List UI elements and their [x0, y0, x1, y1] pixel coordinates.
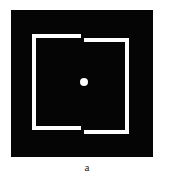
- figure-caption: a: [0, 160, 174, 174]
- frame-segment-top-right: [84, 38, 129, 42]
- fixation-dot: [80, 78, 88, 86]
- frame-segment-right-vertical: [125, 38, 129, 134]
- frame-segment-left-vertical: [32, 34, 36, 130]
- frame-segment-bottom-right: [84, 130, 129, 134]
- frame-segment-top-left: [32, 34, 81, 38]
- stimulus-panel: [11, 10, 153, 157]
- frame-segment-bottom-left: [32, 126, 81, 130]
- figure-container: a: [0, 0, 174, 182]
